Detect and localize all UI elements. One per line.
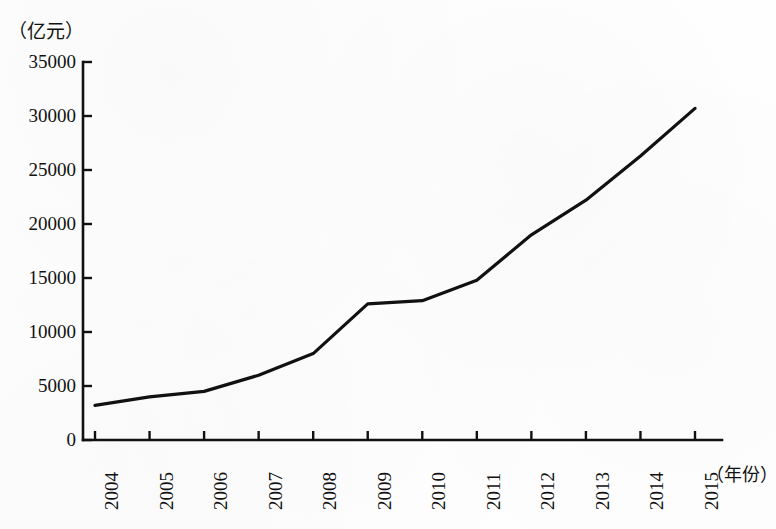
x-axis-tick-label: 2007 (266, 472, 285, 510)
x-axis-tick-label: 2012 (538, 472, 557, 510)
x-axis-tick-label: 2004 (102, 472, 121, 510)
x-axis-tick-label: 2008 (320, 472, 339, 510)
x-axis-tick-label: 2006 (211, 472, 230, 510)
x-axis-tick-label: 2014 (647, 472, 666, 510)
x-axis-tick-label: 2009 (375, 472, 394, 510)
x-axis-tick-label: 2015 (702, 472, 721, 510)
x-axis-tick-label: 2010 (429, 472, 448, 510)
line-chart: （亿元） （年份） 050001000015000200002500030000… (0, 0, 776, 529)
x-axis-tick-label: 2011 (484, 473, 503, 510)
x-axis-tick-label: 2005 (157, 472, 176, 510)
x-axis-tick-label: 2013 (593, 472, 612, 510)
x-axis-tick-labels: 2004200520062007200820092010201120122013… (0, 0, 776, 529)
